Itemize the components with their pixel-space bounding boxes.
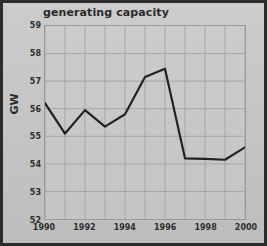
y-tick-label: 57 [7,76,41,85]
x-tick-label: 1994 [114,223,136,232]
x-axis-tick-labels: 199019921994199619982000 [44,223,246,243]
x-tick-label: 1990 [33,223,55,232]
x-tick-label: 1998 [194,223,216,232]
x-tick-label: 1992 [73,223,95,232]
y-axis-tick-labels: 5253545556575859 [3,25,41,220]
y-tick-label: 56 [7,104,41,113]
y-tick-label: 54 [7,160,41,169]
x-tick-label: 2000 [235,223,257,232]
x-tick-label: 1996 [154,223,176,232]
chart-figure: generating capacity GW 5253545556575859 … [0,0,267,246]
y-tick-label: 59 [7,21,41,30]
y-tick-label: 53 [7,188,41,197]
y-tick-label: 55 [7,132,41,141]
data-line-series [45,26,245,219]
plot-area [44,25,246,220]
y-tick-label: 58 [7,48,41,57]
chart-title: generating capacity [43,6,169,19]
